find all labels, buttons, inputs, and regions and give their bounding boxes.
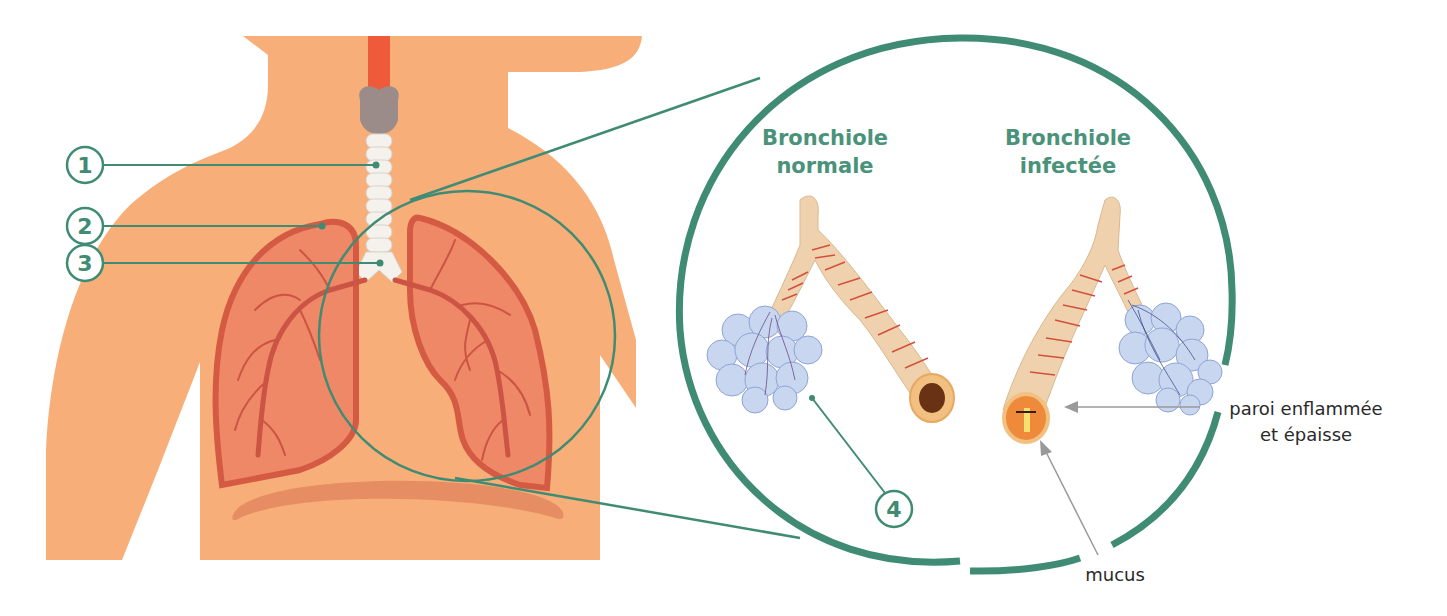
respiratory-diagram — [0, 0, 1447, 616]
larynx — [359, 86, 399, 134]
mucus-label: mucus — [1080, 562, 1150, 588]
infected-title-line1: Bronchiole — [988, 124, 1148, 152]
normal-title-line1: Bronchiole — [745, 124, 905, 152]
wall-label-line1: paroi enflammée — [1200, 396, 1412, 422]
normal-title-line2: normale — [745, 152, 905, 180]
infected-bronchiole-title: Bronchiole infectée — [988, 124, 1148, 180]
label-4: 4 — [876, 491, 912, 527]
label-2: 2 — [67, 208, 103, 244]
label-3: 3 — [67, 245, 103, 281]
normal-bronchiole — [707, 196, 954, 422]
mucus-arrowhead — [1040, 440, 1052, 456]
label-4-pointer — [812, 398, 885, 493]
wall-arrowhead — [1064, 401, 1078, 413]
infected-bronchiole — [1003, 197, 1222, 442]
wall-label-line2: et épaisse — [1200, 422, 1412, 448]
infected-title-line2: infectée — [988, 152, 1148, 180]
label-1: 1 — [67, 147, 103, 183]
zoom-panel-circle — [679, 38, 1232, 562]
mucus-pointer — [1045, 450, 1098, 555]
normal-bronchiole-title: Bronchiole normale — [745, 124, 905, 180]
inflamed-wall-label: paroi enflammée et épaisse — [1200, 396, 1412, 448]
